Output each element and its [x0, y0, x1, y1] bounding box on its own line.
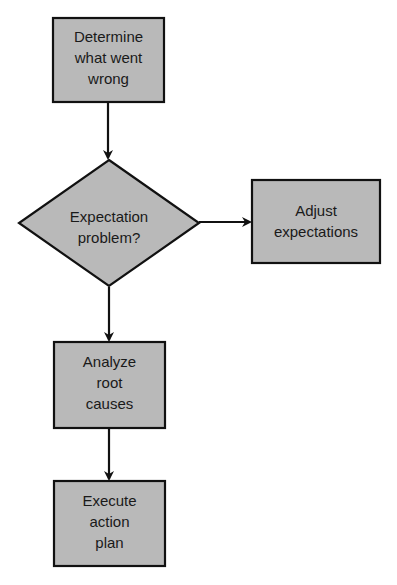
node-decision-line-2: problem?	[78, 229, 141, 246]
node-analyze-line-3: causes	[86, 395, 134, 412]
node-analyze-line-2: root	[97, 374, 124, 391]
node-execute-line-3: plan	[95, 534, 123, 551]
flowchart: Determine what went wrong Expectation pr…	[0, 0, 397, 585]
node-determine: Determine what went wrong	[53, 18, 164, 102]
node-adjust-shape	[252, 180, 380, 263]
node-execute-line-2: action	[89, 513, 129, 530]
node-analyze: Analyze root causes	[54, 342, 165, 428]
node-decision: Expectation problem?	[19, 160, 199, 286]
node-adjust-line-2: expectations	[274, 223, 358, 240]
node-determine-line-1: Determine	[74, 28, 143, 45]
node-determine-line-3: wrong	[87, 70, 129, 87]
node-analyze-line-1: Analyze	[83, 353, 136, 370]
node-decision-line-1: Expectation	[70, 208, 148, 225]
node-execute: Execute action plan	[54, 481, 165, 566]
node-determine-line-2: what went	[74, 49, 143, 66]
node-adjust: Adjust expectations	[252, 180, 380, 263]
node-execute-line-1: Execute	[82, 492, 136, 509]
node-adjust-line-1: Adjust	[295, 202, 338, 219]
